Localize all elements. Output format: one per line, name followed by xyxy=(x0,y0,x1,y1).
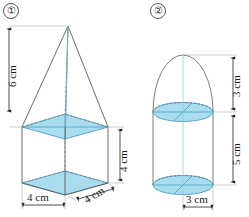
figure-2-number: ② xyxy=(150,3,166,19)
dim-4cm-depth-ext-a xyxy=(68,196,76,200)
figure-canvas: ① ② 6 cm 4 cm 4 cm 4 cm 3 cm 5 cm 3 cm xyxy=(0,0,249,217)
label-pyramid-height: 6 cm xyxy=(7,65,18,87)
figure-1-number: ① xyxy=(3,3,19,19)
dim-4cm-depth-ext-b xyxy=(109,184,115,188)
label-base-width: 4 cm xyxy=(27,192,49,203)
geometry-drawing xyxy=(0,0,249,217)
pyramid-edge-left xyxy=(22,26,68,127)
label-prism-height: 4 cm xyxy=(118,150,129,172)
label-cylinder-height: 5 cm xyxy=(231,143,242,165)
figure-2-group xyxy=(153,55,237,211)
pyramid-edge-right xyxy=(68,26,108,127)
figure-1-group xyxy=(9,26,124,209)
label-hemisphere-height: 3 cm xyxy=(231,75,242,97)
pyramid-axis xyxy=(66,26,69,127)
label-base-radius: 3 cm xyxy=(186,194,208,205)
